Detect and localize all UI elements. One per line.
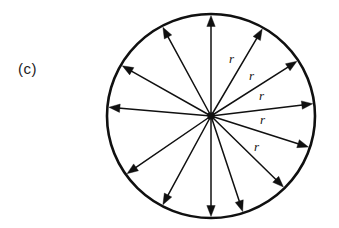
center-hub-group [208, 113, 215, 120]
radius-arrow-head [285, 61, 297, 71]
radius-arrow-head [109, 104, 120, 112]
radius-arrow-head [163, 193, 172, 205]
figure-panel-c: (c) r r r r r [0, 0, 339, 228]
radius-arrow-head [253, 29, 262, 41]
radius-label-4: r [260, 113, 265, 126]
radius-label-1: r [229, 52, 234, 65]
radius-arrow-head [163, 27, 172, 39]
radius-arrow-head [122, 66, 134, 75]
radius-arrow-shaft [166, 116, 211, 199]
radius-arrow-shaft [211, 116, 279, 183]
radius-arrow-head [297, 140, 309, 148]
radius-label-2: r [249, 69, 254, 82]
radius-arrow-head [301, 101, 312, 109]
radius-vector-diagram [0, 0, 339, 228]
radius-arrow-shaft [132, 116, 211, 170]
radius-arrow-shaft [115, 108, 211, 116]
radius-label-3: r [259, 89, 264, 102]
radius-label-5: r [254, 140, 259, 153]
radius-arrow-shaft [211, 116, 241, 206]
panel-label-c: (c) [18, 60, 37, 77]
radius-arrow-head [127, 164, 138, 174]
radius-arrow-head [235, 200, 243, 212]
radius-arrow-head [207, 206, 215, 217]
center-hub-marker [208, 113, 215, 120]
radius-arrow-head [207, 16, 215, 27]
